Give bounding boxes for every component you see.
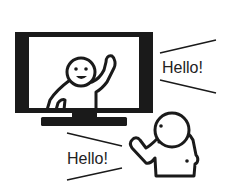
viewer-speech: Hello!	[67, 133, 122, 180]
viewer-person-eye	[159, 124, 163, 128]
viewer-person-hand-dot	[185, 159, 189, 163]
tv-stand-base	[41, 117, 127, 126]
tv-person-left-eye	[74, 67, 78, 71]
viewer-speech-text: Hello!	[67, 150, 108, 167]
viewer-person-mouth	[157, 140, 160, 143]
viewer-person-icon	[131, 113, 198, 176]
tv-speech: Hello!	[160, 40, 216, 93]
video-call-illustration: Hello! Hello!	[0, 0, 228, 191]
tv-speech-text: Hello!	[162, 59, 203, 76]
tv-person-right-eye	[84, 67, 88, 71]
